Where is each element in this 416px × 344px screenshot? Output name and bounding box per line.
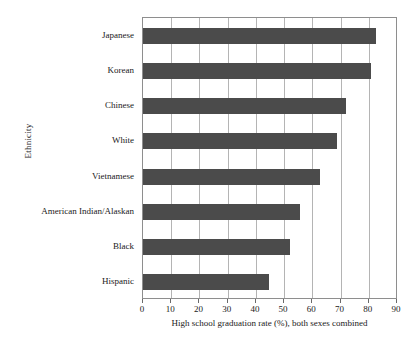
y-axis-tick-labels: JapaneseKoreanChineseWhiteVietnameseAmer… bbox=[0, 17, 138, 299]
x-axis-tick bbox=[227, 299, 228, 303]
x-axis-tick bbox=[198, 299, 199, 303]
y-axis-tick-label: Hispanic bbox=[102, 276, 134, 286]
x-axis-tick bbox=[283, 299, 284, 303]
gridline bbox=[256, 18, 257, 298]
y-axis-tick-label: Black bbox=[113, 241, 134, 251]
x-axis-tick-label: 30 bbox=[215, 304, 239, 314]
y-axis-tick-label: White bbox=[112, 135, 134, 145]
x-axis-tick-label: 10 bbox=[158, 304, 182, 314]
x-axis-tick-label: 50 bbox=[271, 304, 295, 314]
bar bbox=[143, 274, 269, 290]
x-axis-tick bbox=[255, 299, 256, 303]
bar bbox=[143, 133, 337, 149]
x-axis-tick-label: 70 bbox=[328, 304, 352, 314]
x-axis-tick bbox=[142, 299, 143, 303]
y-axis-tick-label: Japanese bbox=[102, 30, 134, 40]
y-axis-tick-label: American Indian/Alaskan bbox=[41, 206, 134, 216]
gridline bbox=[199, 18, 200, 298]
plot-area bbox=[142, 17, 397, 299]
x-axis-tick bbox=[368, 299, 369, 303]
y-axis-tick-label: Chinese bbox=[105, 100, 134, 110]
gridline bbox=[171, 18, 172, 298]
plot-inner bbox=[143, 18, 396, 298]
gridline bbox=[341, 18, 342, 298]
y-axis-tick-label: Vietnamese bbox=[92, 171, 134, 181]
x-axis-tick-label: 40 bbox=[243, 304, 267, 314]
bar bbox=[143, 28, 376, 44]
y-axis-tick-label: Korean bbox=[108, 65, 135, 75]
x-axis-tick-label: 80 bbox=[356, 304, 380, 314]
x-axis-tick bbox=[311, 299, 312, 303]
gridline bbox=[312, 18, 313, 298]
gridline bbox=[369, 18, 370, 298]
gridline bbox=[228, 18, 229, 298]
x-axis-tick bbox=[396, 299, 397, 303]
bar bbox=[143, 239, 290, 255]
x-axis-tick-label: 60 bbox=[299, 304, 323, 314]
bar bbox=[143, 169, 320, 185]
x-axis-title: High school graduation rate (%), both se… bbox=[142, 318, 397, 328]
bar bbox=[143, 63, 371, 79]
x-axis-tick-label: 0 bbox=[130, 304, 154, 314]
bar bbox=[143, 204, 300, 220]
bar bbox=[143, 98, 346, 114]
bar-chart: Ethnicity JapaneseKoreanChineseWhiteViet… bbox=[0, 0, 416, 344]
x-axis-tick bbox=[170, 299, 171, 303]
gridline bbox=[284, 18, 285, 298]
x-axis-tick bbox=[340, 299, 341, 303]
x-axis-tick-label: 20 bbox=[186, 304, 210, 314]
x-axis-tick-label: 90 bbox=[384, 304, 408, 314]
